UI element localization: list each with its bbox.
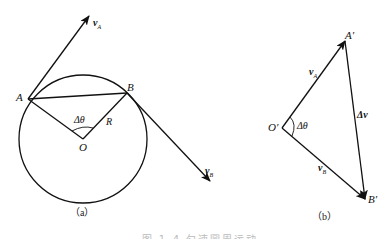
- point-b-prime-label: B′: [368, 194, 377, 205]
- panel-b: [282, 41, 365, 199]
- point-b-label: B: [127, 82, 134, 93]
- figure-canvas: A B O R Δθ vA vB （a） O′ A′ B′ Δθ Δv vA v…: [0, 0, 390, 239]
- radius-r-label: R: [106, 117, 112, 127]
- delta-v-label: Δv: [357, 110, 368, 120]
- velocity-b-label: vB: [205, 166, 213, 178]
- velocity-a-subscript: A: [97, 24, 101, 30]
- point-a-label: A: [16, 92, 23, 103]
- vector-vb-subscript: B: [322, 169, 326, 175]
- radius-ob: [83, 93, 127, 139]
- chord-ab: [28, 93, 127, 99]
- point-a-prime-label: A′: [345, 30, 354, 41]
- velocity-b-subscript: B: [209, 172, 213, 178]
- panel-a: [19, 16, 210, 203]
- vector-va-subscript: A: [313, 73, 317, 79]
- vector-delta-v: [345, 41, 365, 199]
- diagram-svg: [0, 0, 390, 239]
- vector-va-label-b: vA: [309, 67, 317, 79]
- velocity-a-label: vA: [93, 18, 101, 30]
- angle-arc-a: [72, 127, 93, 131]
- delta-theta-label-a: Δθ: [74, 115, 85, 125]
- angle-arc-b: [290, 117, 294, 136]
- velocity-vector-a: [28, 16, 89, 99]
- panel-a-caption: （a）: [70, 208, 94, 218]
- delta-theta-label-b: Δθ: [297, 121, 308, 131]
- figure-caption: 图 1-4 匀速圆周运动: [130, 231, 270, 239]
- point-o-prime-label: O′: [268, 122, 278, 133]
- vector-va-b: [282, 41, 345, 128]
- vector-vb-label-b: vB: [318, 163, 326, 175]
- center-o-label: O: [79, 142, 87, 153]
- panel-b-caption: （b）: [312, 212, 337, 222]
